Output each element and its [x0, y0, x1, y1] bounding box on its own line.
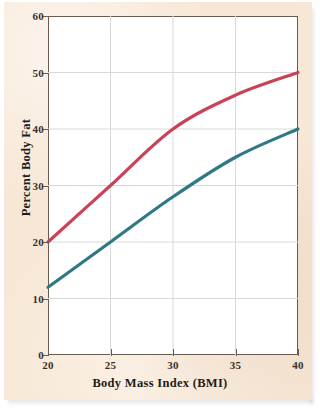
y-axis-tick-mark [43, 16, 49, 17]
x-axis-tick-label: 25 [91, 359, 131, 371]
y-axis-tick-label: 60 [10, 10, 44, 22]
y-axis-tick-mark [43, 242, 49, 243]
x-axis-tick-label: 30 [153, 359, 193, 371]
x-axis-tick-mark [236, 349, 237, 356]
figure-container: 01020304050602025303540 Body Mass Index … [0, 0, 320, 417]
y-axis-tick-mark [43, 299, 49, 300]
y-axis-tick-label: 50 [10, 67, 44, 79]
y-axis-tick-label: 10 [10, 293, 44, 305]
y-axis-tick-label: 20 [10, 236, 44, 248]
chart-plot-svg [48, 16, 298, 355]
x-axis-tick-label: 40 [278, 359, 318, 371]
y-axis-tick-mark [43, 73, 49, 74]
x-axis-tick-mark [173, 349, 174, 356]
x-axis-tick-mark [48, 349, 49, 356]
y-axis-tick-mark [43, 186, 49, 187]
y-axis-title: Percent Body Fat [19, 98, 34, 238]
y-axis-tick-mark [43, 129, 49, 130]
x-axis-tick-label: 20 [28, 359, 68, 371]
x-axis-title: Body Mass Index (BMI) [0, 376, 320, 391]
gridlines-layer [48, 16, 298, 355]
x-axis-tick-mark [298, 349, 299, 356]
x-axis-tick-mark [111, 349, 112, 356]
x-axis-tick-label: 35 [216, 359, 256, 371]
